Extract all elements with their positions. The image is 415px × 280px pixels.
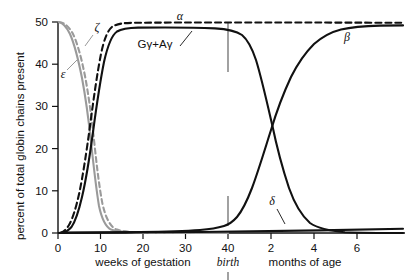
x-tick-gest-40: 40 xyxy=(222,242,235,254)
leader-epsilon xyxy=(67,60,77,70)
y-axis-tick-labels: 0 10 20 30 40 50 xyxy=(35,16,48,239)
y-axis-title: percent of total globin chains present xyxy=(14,51,26,240)
y-tick-0: 0 xyxy=(42,227,48,239)
x-tick-month-2: 2 xyxy=(268,242,274,254)
x-axis-tick-labels: 0 10 20 30 40 2 4 6 xyxy=(55,242,360,254)
x-axis-title-months: months of age xyxy=(269,256,342,268)
curve-label-gamma: Gγ+Aγ xyxy=(138,38,173,50)
birth-label: birth xyxy=(217,256,240,268)
y-tick-40: 40 xyxy=(35,58,48,70)
leader-gamma xyxy=(180,31,192,46)
y-axis-ticks xyxy=(52,22,58,233)
x-axis-title-gestation: weeks of gestation xyxy=(94,256,190,268)
x-tick-gest-20: 20 xyxy=(137,242,150,254)
x-tick-gest-30: 30 xyxy=(179,242,192,254)
curve-label-epsilon: ε xyxy=(61,67,66,81)
x-tick-month-6: 6 xyxy=(354,242,360,254)
curve-label-beta: β xyxy=(343,30,350,44)
y-tick-20: 20 xyxy=(35,143,48,155)
curve-label-delta: δ xyxy=(269,194,275,208)
y-tick-30: 30 xyxy=(35,100,48,112)
y-tick-50: 50 xyxy=(35,16,48,28)
leader-delta xyxy=(277,209,285,224)
curve-label-alpha: α xyxy=(177,9,184,23)
curve-gamma xyxy=(61,27,403,233)
curve-beta xyxy=(59,25,403,233)
x-tick-month-4: 4 xyxy=(311,242,318,254)
x-tick-gest-0: 0 xyxy=(55,242,61,254)
x-tick-gest-10: 10 xyxy=(94,242,107,254)
curve-alpha xyxy=(60,23,403,233)
y-tick-10: 10 xyxy=(35,185,48,197)
leader-zeta xyxy=(85,35,93,46)
curve-zeta xyxy=(59,22,228,233)
chart-plot-area: percent of total globin chains present 0… xyxy=(0,0,415,280)
curve-label-zeta: ζ xyxy=(95,20,101,34)
globin-chain-switching-chart: percent of total globin chains present 0… xyxy=(0,0,415,280)
curve-epsilon xyxy=(59,22,229,233)
